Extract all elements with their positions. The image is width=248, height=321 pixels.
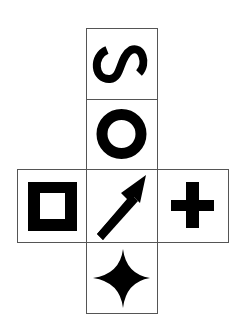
cube-net-diagram (0, 0, 248, 321)
hollow-square-icon (28, 182, 77, 231)
